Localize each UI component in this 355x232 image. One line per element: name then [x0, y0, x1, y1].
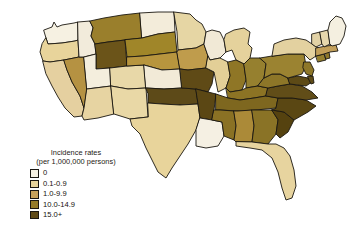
- legend-label: 1.0-9.9: [43, 189, 67, 199]
- state-MI[interactable]: [224, 28, 252, 64]
- legend-items: 0 0.1-0.9 1.0-9.9 10.0-14.9 15.0+: [22, 168, 130, 220]
- state-ME[interactable]: [328, 16, 346, 46]
- state-NM[interactable]: [111, 86, 148, 119]
- legend-row[interactable]: 0: [30, 168, 130, 178]
- legend-swatch-icon: [30, 169, 39, 178]
- legend-label: 15.0+: [43, 210, 62, 220]
- legend-swatch-icon: [30, 190, 39, 199]
- state-WA[interactable]: [44, 22, 78, 44]
- legend-swatch-icon: [30, 180, 39, 189]
- state-WY[interactable]: [95, 40, 127, 69]
- state-PA[interactable]: [260, 54, 306, 78]
- state-AL[interactable]: [234, 110, 254, 142]
- legend-label: 10.0-14.9: [43, 200, 75, 210]
- legend-row[interactable]: 10.0-14.9: [30, 200, 130, 210]
- state-FL[interactable]: [236, 142, 296, 200]
- choropleth-figure: Incidence rates (per 1,000,000 persons) …: [0, 0, 355, 232]
- map-legend: Incidence rates (per 1,000,000 persons) …: [22, 148, 130, 220]
- state-GA[interactable]: [252, 110, 278, 144]
- legend-row[interactable]: 0.1-0.9: [30, 179, 130, 189]
- state-NJ[interactable]: [303, 62, 314, 76]
- state-CO[interactable]: [110, 65, 146, 89]
- legend-row[interactable]: 15.0+: [30, 210, 130, 220]
- state-AZ[interactable]: [82, 86, 114, 120]
- state-MO[interactable]: [180, 68, 214, 92]
- state-LA[interactable]: [196, 118, 224, 148]
- state-OK[interactable]: [146, 88, 198, 105]
- legend-swatch-icon: [30, 211, 39, 220]
- state-MN[interactable]: [174, 12, 206, 50]
- legend-swatch-icon: [30, 200, 39, 209]
- legend-label: 0: [43, 168, 47, 178]
- legend-row[interactable]: 1.0-9.9: [30, 189, 130, 199]
- legend-title-line2: (per 1,000,000 persons): [22, 157, 130, 166]
- legend-title-line1: Incidence rates: [22, 148, 130, 157]
- legend-label: 0.1-0.9: [43, 179, 67, 189]
